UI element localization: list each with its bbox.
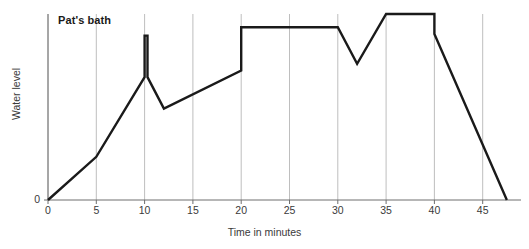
x-tick-label-40: 40 <box>419 204 449 216</box>
y-tick-label-0: 0 <box>20 193 40 205</box>
x-tick-label-35: 35 <box>371 204 401 216</box>
x-tick-label-20: 20 <box>226 204 256 216</box>
x-axis-title: Time in minutes <box>0 226 529 238</box>
gridlines <box>48 14 483 200</box>
water-level-line <box>48 14 507 200</box>
x-tick-label-10: 10 <box>130 204 160 216</box>
x-tick-label-45: 45 <box>468 204 498 216</box>
axes <box>48 14 521 200</box>
x-tick-label-25: 25 <box>275 204 305 216</box>
x-tick-label-30: 30 <box>323 204 353 216</box>
chart-title: Pat's bath <box>58 14 111 26</box>
x-tick-label-15: 15 <box>178 204 208 216</box>
x-tick-label-0: 0 <box>33 204 63 216</box>
x-tick-label-5: 5 <box>81 204 111 216</box>
y-axis-title: Water level <box>10 54 22 134</box>
chart-plot-area <box>0 0 529 249</box>
chart-container: Pat's bath Water level Time in minutes 0… <box>0 0 529 249</box>
